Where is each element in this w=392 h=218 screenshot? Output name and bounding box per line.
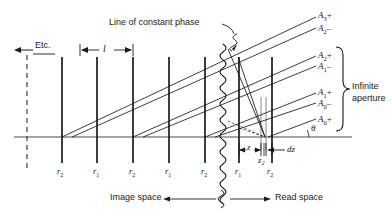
dz-slab-lines xyxy=(261,97,266,150)
amp-sign: – xyxy=(327,98,332,108)
image-space-arrowhead xyxy=(163,197,170,202)
index-label-6: r1 xyxy=(235,167,241,178)
space-divider-wave-glyph xyxy=(218,190,224,208)
read-space-label: Read space xyxy=(275,193,323,202)
index-label-1: r2 xyxy=(57,167,63,178)
read-space-arrowhead xyxy=(264,197,271,202)
dimension-z2-label: z₂ xyxy=(258,156,265,165)
infinite-aperture-label-line2: aperture xyxy=(352,94,386,103)
spacing-arrowhead-left xyxy=(81,47,88,53)
image-space-label: Image space xyxy=(110,193,162,202)
constant-phase-leader xyxy=(222,24,234,34)
amp-sign: – xyxy=(327,61,332,71)
ray-A0m xyxy=(215,103,316,137)
wavy-boundary-line xyxy=(220,44,226,204)
index-label-3: r2 xyxy=(129,167,135,178)
index-sub: 2 xyxy=(60,172,63,178)
index-sub: 2 xyxy=(270,172,273,178)
spacing-arrowhead-right xyxy=(125,47,132,53)
amplitude-label-A2-minus: A2– xyxy=(318,24,331,35)
ray-bundle xyxy=(62,17,316,137)
grating-plane-group-image-space xyxy=(62,57,205,163)
index-sub: 1 xyxy=(96,172,99,178)
dim-z-arrowhead-left xyxy=(239,148,245,153)
infinite-aperture-label-line1: Infinite xyxy=(352,82,379,91)
index-label-7: r2 xyxy=(267,167,273,178)
amplitude-label-A0-plus: A0+ xyxy=(318,115,332,126)
spacing-l-label: l xyxy=(103,44,106,54)
dimension-z-label: z xyxy=(247,143,251,152)
ray-A1p xyxy=(205,93,316,137)
optical-wave-diagram xyxy=(0,0,392,218)
index-sub: 1 xyxy=(168,172,171,178)
amp-sign: – xyxy=(327,23,332,33)
ray-A3p xyxy=(62,17,316,137)
line-of-constant-phase-label: Line of constant phase xyxy=(109,18,200,27)
amplitude-label-A1-minus: A1– xyxy=(318,62,331,73)
index-label-2: r1 xyxy=(93,167,99,178)
amplitude-label-A3-plus: A3+ xyxy=(318,11,332,22)
index-sub: 2 xyxy=(204,172,207,178)
amp-sign: + xyxy=(327,87,332,97)
infinite-aperture-brace xyxy=(336,47,350,131)
converging-ray-down xyxy=(228,49,265,137)
theta-angle-arc xyxy=(307,130,309,137)
converging-rays xyxy=(228,49,265,137)
amp-sign: + xyxy=(327,50,332,60)
amplitude-label-A0-minus: A0– xyxy=(318,99,331,110)
dim-z-arrowhead-right xyxy=(255,148,261,153)
amp-sign: + xyxy=(327,114,332,124)
amp-sign: + xyxy=(327,10,332,20)
index-sub: 1 xyxy=(238,172,241,178)
etc-arrowhead xyxy=(14,47,21,53)
etc-label: Etc. xyxy=(35,41,51,50)
index-label-4: r1 xyxy=(165,167,171,178)
index-label-5: r2 xyxy=(201,167,207,178)
ray-A2m xyxy=(72,28,316,137)
index-sub: 2 xyxy=(132,172,135,178)
dimension-dz-label: dz xyxy=(287,145,295,154)
theta-label: θ xyxy=(311,124,315,133)
dim-dz-arrowhead xyxy=(267,148,274,153)
